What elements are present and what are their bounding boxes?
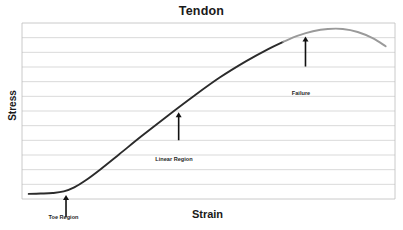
annotation-label-toe-region: Toe Region (36, 214, 91, 220)
arrow-head-toe-region (63, 195, 69, 200)
curve-toe-and-linear (29, 42, 283, 194)
plot-area (0, 0, 403, 230)
arrow-head-linear-region (176, 112, 182, 117)
chart-figure: Tendon Stress Strain Toe Region Linear R… (0, 0, 403, 230)
annotation-label-linear-region: Linear Region (146, 156, 202, 162)
gridlines (22, 38, 395, 185)
annotation-label-failure: Failure (278, 90, 324, 96)
annotation-arrows (63, 37, 308, 217)
